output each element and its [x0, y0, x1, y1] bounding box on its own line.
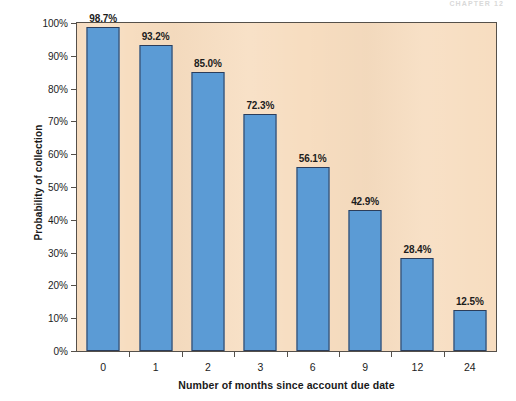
y-axis-tick-label: 60% [48, 149, 68, 160]
bar-slot: 93.2% [129, 23, 181, 351]
x-axis-tick [129, 351, 130, 357]
bar-value-label: 42.9% [351, 196, 379, 207]
x-axis-tick-label: 24 [464, 361, 476, 373]
y-axis-tick [71, 56, 77, 57]
y-axis-tick [71, 285, 77, 286]
y-axis-tick-label: 10% [48, 313, 68, 324]
x-axis-tick-label: 9 [362, 361, 368, 373]
bar-value-label: 72.3% [246, 100, 274, 111]
bar-slot: 85.0% [182, 23, 234, 351]
y-axis-tick [71, 318, 77, 319]
y-axis-tick-label: 20% [48, 280, 68, 291]
y-axis-tick-label: 40% [48, 214, 68, 225]
x-axis-tick [234, 351, 235, 357]
bar[interactable] [401, 258, 434, 351]
bar[interactable] [139, 45, 172, 351]
x-axis-tick-label: 12 [412, 361, 424, 373]
y-axis-tick [71, 253, 77, 254]
y-axis-title: Probability of collection [33, 98, 44, 268]
y-axis-tick [71, 187, 77, 188]
x-axis-tick [444, 351, 445, 357]
bar-value-label: 85.0% [194, 58, 222, 69]
y-axis-tick-label: 70% [48, 116, 68, 127]
y-axis-tick-label: 80% [48, 83, 68, 94]
x-axis-tick [391, 351, 392, 357]
y-axis-tick-label: 100% [42, 18, 68, 29]
x-axis-tick-label: 0 [100, 361, 106, 373]
x-axis-tick-label: 6 [310, 361, 316, 373]
y-axis-tick-label: 0% [54, 346, 68, 357]
bar[interactable] [349, 210, 382, 351]
x-axis-tick-label: 3 [257, 361, 263, 373]
bar-value-label: 56.1% [299, 153, 327, 164]
y-axis-tick-label: 90% [48, 50, 68, 61]
bar-series: 98.7%93.2%85.0%72.3%56.1%42.9%28.4%12.5% [77, 23, 496, 351]
bar[interactable] [453, 310, 486, 351]
bar-slot: 72.3% [234, 23, 286, 351]
x-axis-tick [287, 351, 288, 357]
bar-value-label: 98.7% [89, 13, 117, 24]
bar[interactable] [244, 114, 277, 351]
bar[interactable] [296, 167, 329, 351]
bar-value-label: 28.4% [404, 244, 432, 255]
y-axis-tick [71, 351, 77, 352]
x-axis-tick [339, 351, 340, 357]
y-axis-tick [71, 154, 77, 155]
bar-slot: 28.4% [391, 23, 443, 351]
bar-value-label: 12.5% [456, 296, 484, 307]
y-axis-tick [71, 121, 77, 122]
bar-slot: 98.7% [77, 23, 129, 351]
y-axis-tick-label: 50% [48, 182, 68, 193]
bar-chart-figure: Probability of collection 98.7%93.2%85.0… [0, 0, 516, 401]
bar[interactable] [191, 72, 224, 351]
y-axis-tick [71, 89, 77, 90]
y-axis-tick [71, 23, 77, 24]
y-axis-tick [71, 220, 77, 221]
bar-value-label: 93.2% [142, 31, 170, 42]
plot-area: 98.7%93.2%85.0%72.3%56.1%42.9%28.4%12.5%… [76, 22, 497, 352]
x-axis-tick-label: 1 [153, 361, 159, 373]
bar-slot: 56.1% [287, 23, 339, 351]
bar-slot: 12.5% [444, 23, 496, 351]
y-axis-tick-label: 30% [48, 247, 68, 258]
x-axis-tick [182, 351, 183, 357]
x-axis-title: Number of months since account due date [76, 379, 497, 391]
x-axis-tick-label: 2 [205, 361, 211, 373]
bar-slot: 42.9% [339, 23, 391, 351]
bar[interactable] [87, 27, 120, 351]
